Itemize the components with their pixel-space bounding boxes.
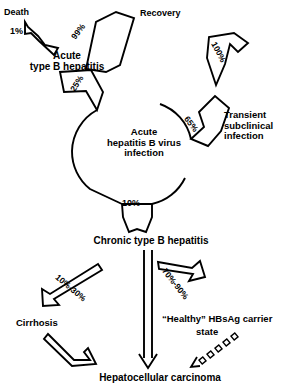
node-label-center-infection: Acute hepatitis B virus infection bbox=[88, 127, 200, 159]
percent-label-chronic-branch: 10% bbox=[122, 198, 140, 208]
node-label-acute-hepatitis: Acute type B hepatitis bbox=[4, 50, 130, 72]
arrow-cirrhosis-to-hcc bbox=[44, 334, 96, 366]
arrow-chronic-to-hcc-head bbox=[139, 354, 157, 368]
node-label-hepatocellular-carcinoma: Hepatocellular carcinoma bbox=[60, 372, 260, 383]
node-label-carrier-state-line1: “Healthy” HBsAg carrier bbox=[162, 314, 302, 325]
node-label-carrier-state-line2: state bbox=[196, 327, 218, 338]
hepatitis-b-outcome-diagram: Death Recovery Acute type B hepatitis Ac… bbox=[0, 0, 302, 392]
percent-label-death: 1% bbox=[10, 26, 23, 36]
node-label-transient-subclinical: Transient subclinical infection bbox=[224, 110, 302, 142]
node-label-recovery: Recovery bbox=[140, 8, 181, 18]
node-label-chronic-hepatitis: Chronic type B hepatitis bbox=[48, 235, 254, 246]
arrow-carrier-to-hcc bbox=[191, 333, 238, 367]
arrow-10-percent bbox=[122, 204, 152, 232]
node-label-death: Death bbox=[4, 7, 29, 17]
node-label-cirrhosis: Cirrhosis bbox=[16, 318, 58, 329]
